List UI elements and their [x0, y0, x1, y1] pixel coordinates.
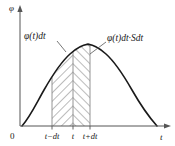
- x-axis-arrowhead: [164, 123, 171, 128]
- figure-container: φ t 0 t−dt t t+dt φ(t)dt φ(t)dt·Sdt: [0, 0, 175, 146]
- left-band-annotation-label: φ(t)dt: [24, 31, 46, 42]
- origin-label: 0: [10, 131, 15, 141]
- density-curve-figure: φ t 0 t−dt t t+dt φ(t)dt φ(t)dt·Sdt: [0, 0, 175, 146]
- right-hatched-band: [73, 40, 90, 126]
- tick-label-t-plus-dt: t+dt: [83, 131, 98, 141]
- leader-line-left-label: [57, 41, 66, 52]
- right-band-annotation-label: φ(t)dt·Sdt: [107, 33, 143, 44]
- tick-label-t: t: [72, 131, 75, 141]
- tick-label-t-minus-dt: t−dt: [45, 131, 60, 141]
- left-hatched-band: [52, 40, 73, 126]
- y-axis-arrowhead: [17, 5, 22, 12]
- x-axis-label: t: [160, 132, 163, 142]
- y-axis-label: φ: [9, 3, 14, 13]
